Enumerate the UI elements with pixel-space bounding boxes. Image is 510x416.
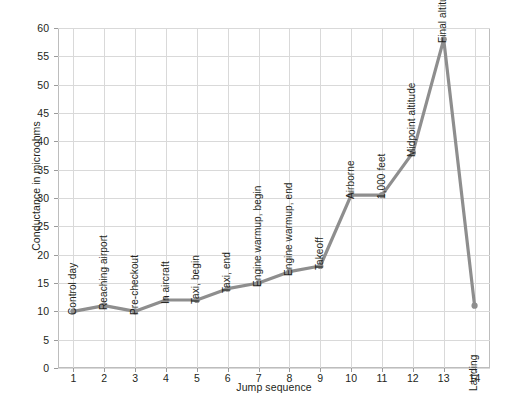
- data-point-label: Control day: [67, 263, 78, 315]
- data-point-label: Final altitude: [437, 0, 448, 43]
- data-point-label: Taxi, end: [221, 252, 232, 293]
- data-point-label: In aircraft: [160, 261, 171, 304]
- y-tick-label: 60: [19, 22, 49, 34]
- x-tick-label: 13: [429, 372, 459, 384]
- x-tick-label: 8: [274, 372, 304, 384]
- x-tick-label: 4: [151, 372, 181, 384]
- x-tick-label: 11: [367, 372, 397, 384]
- y-tick-label: 35: [19, 164, 49, 176]
- data-point-label: 1,000 feet: [376, 154, 387, 199]
- y-tick-label: 0: [19, 362, 49, 374]
- y-tick-label: 5: [19, 334, 49, 346]
- y-tick-label: 10: [19, 305, 49, 317]
- y-tick-label: 15: [19, 277, 49, 289]
- y-tick-label: 25: [19, 220, 49, 232]
- data-point-label: Pre-checkout: [129, 255, 140, 315]
- data-point-label: Engine warmup, begin: [252, 185, 263, 287]
- x-tick-label: 12: [398, 372, 428, 384]
- x-tick-label: 7: [244, 372, 274, 384]
- y-tick-label: 30: [19, 192, 49, 204]
- y-tick-label: 40: [19, 135, 49, 147]
- y-tick-mark: [54, 368, 58, 369]
- data-point-label: Engine warmup, end: [283, 182, 294, 276]
- data-point-label: Airborne: [345, 161, 356, 200]
- y-tick-label: 45: [19, 107, 49, 119]
- data-point-marker: [471, 303, 477, 309]
- x-tick-label: 2: [89, 372, 119, 384]
- x-tick-label: 5: [182, 372, 212, 384]
- data-point-label: Midpoint altitude: [406, 82, 417, 157]
- data-point-label: Takeoff: [314, 237, 325, 270]
- x-tick-label: 6: [213, 372, 243, 384]
- data-point-label: Reaching airport: [98, 235, 109, 310]
- data-point-label: Taxi, begin: [190, 255, 201, 304]
- line-chart: Conductance in microohms Jump sequence 0…: [0, 0, 510, 416]
- x-tick-label: 1: [58, 372, 88, 384]
- gridline-horizontal: [58, 368, 490, 369]
- y-tick-label: 55: [19, 50, 49, 62]
- y-tick-label: 50: [19, 79, 49, 91]
- x-tick-label: 3: [120, 372, 150, 384]
- y-tick-label: 20: [19, 249, 49, 261]
- x-tick-label: 9: [305, 372, 335, 384]
- y-axis-title: Conductance in microohms: [30, 66, 42, 306]
- data-series-line: [58, 28, 490, 368]
- x-tick-label: 10: [336, 372, 366, 384]
- data-point-label: Landing: [468, 354, 479, 390]
